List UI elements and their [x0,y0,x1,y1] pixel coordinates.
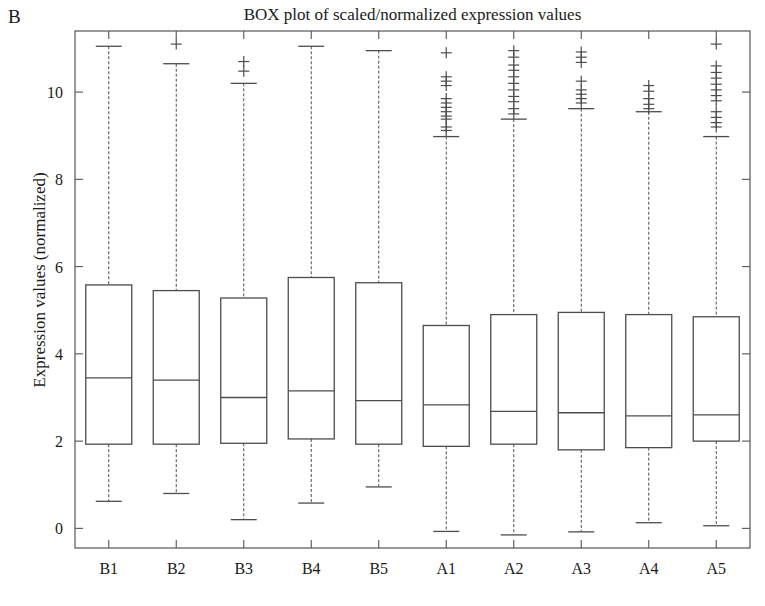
y-tick-label-2: 2 [55,433,63,450]
figure-box-plot: B BOX plot of scaled/normalized expressi… [0,0,765,606]
x-tick-label-A1: A1 [436,560,456,577]
x-tick-label-B5: B5 [369,560,388,577]
box-A1 [423,325,469,446]
box-B5 [356,283,402,444]
boxes-layer [86,39,740,535]
box-A3 [558,312,604,449]
box-group-A2 [491,45,537,535]
outlier-A3-2 [576,57,587,68]
box-B4 [288,278,334,439]
x-tick-label-B1: B1 [99,560,118,577]
box-A2 [491,315,537,445]
x-tick-label-B3: B3 [234,560,253,577]
y-tick-label-8: 8 [55,171,63,188]
box-A4 [626,315,672,448]
box-group-A5 [693,39,739,526]
x-tick-label-B2: B2 [167,560,186,577]
outlier-A1-0 [441,47,452,58]
x-tick-label-B4: B4 [302,560,321,577]
box-A5 [693,317,739,441]
outlier-B2-0 [171,39,182,50]
box-group-B3 [221,56,267,520]
box-B1 [86,285,132,444]
axes-layer: 0246810B1B2B3B4B5A1A2A3A4A5 [47,31,750,577]
box-B2 [153,291,199,445]
x-tick-label-A4: A4 [639,560,659,577]
box-group-A3 [558,46,604,531]
outlier-B3-0 [238,56,249,67]
box-group-A4 [626,80,672,523]
outlier-A5-7 [711,95,722,106]
box-B3 [221,298,267,443]
plot-area: 0246810B1B2B3B4B5A1A2A3A4A5 [0,0,765,606]
x-tick-label-A5: A5 [706,560,726,577]
y-tick-label-4: 4 [55,346,63,363]
y-tick-label-6: 6 [55,259,63,276]
box-group-B2 [153,39,199,494]
y-tick-label-0: 0 [55,520,63,537]
outlier-B3-1 [238,66,249,77]
x-tick-label-A3: A3 [571,560,591,577]
box-group-B5 [356,51,402,487]
x-tick-label-A2: A2 [504,560,524,577]
box-group-B1 [86,46,132,501]
box-group-B4 [288,46,334,503]
y-tick-label-10: 10 [47,84,63,101]
box-group-A1 [423,47,469,531]
outlier-A2-10 [508,108,519,119]
outlier-A5-0 [711,39,722,50]
